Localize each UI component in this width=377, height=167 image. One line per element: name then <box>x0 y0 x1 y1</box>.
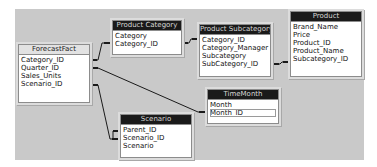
table-scenario[interactable]: Scenario Parent_ID Scenario_ID Scenario <box>120 114 192 158</box>
field-month[interactable]: Month <box>210 101 276 109</box>
relationship-line[interactable] <box>90 68 207 112</box>
table-product-category[interactable]: Product Category Category Category_ID <box>112 20 182 55</box>
table-title[interactable]: Product <box>291 12 361 22</box>
table-title[interactable]: Product Category <box>113 21 181 31</box>
field-category-manager[interactable]: Category_Manager <box>202 44 268 52</box>
table-title[interactable]: Product Subcategory <box>200 25 270 35</box>
table-title[interactable]: TimeMonth <box>208 90 278 100</box>
field-category-id[interactable]: Category_ID <box>202 36 268 44</box>
field-scenario-id[interactable]: Scenario_ID <box>21 80 87 88</box>
field-subcategory[interactable]: Subcategory <box>202 52 268 60</box>
relationship-line[interactable] <box>113 131 120 138</box>
table-product[interactable]: Product Brand_Name Price Product_ID Prod… <box>290 11 362 77</box>
table-title[interactable]: ForecastFact <box>19 45 89 55</box>
field-brand-name[interactable]: Brand_Name <box>293 23 359 31</box>
field-quarter-id[interactable]: Quarter_ID <box>21 64 87 72</box>
field-product-name[interactable]: Product_Name <box>293 47 359 55</box>
field-product-id[interactable]: Product_ID <box>293 39 359 47</box>
field-month-id[interactable]: Month_ID <box>210 109 276 117</box>
field-price[interactable]: Price <box>293 31 359 39</box>
table-forecastfact[interactable]: ForecastFact Category_ID Quarter_ID Sale… <box>18 44 90 103</box>
field-subcategory-id[interactable]: SubCategory_ID <box>202 60 268 68</box>
field-category[interactable]: Category <box>115 32 179 40</box>
field-sales-units[interactable]: Sales_Units <box>21 72 87 80</box>
field-scenario-id[interactable]: Scenario_ID <box>123 134 189 142</box>
field-scenario[interactable]: Scenario <box>123 142 189 150</box>
field-parent-id[interactable]: Parent_ID <box>123 126 189 134</box>
table-product-subcategory[interactable]: Product Subcategory Category_ID Category… <box>199 24 271 77</box>
field-category-id[interactable]: Category_ID <box>115 40 179 48</box>
table-timemonth[interactable]: TimeMonth Month Month_ID <box>207 89 279 124</box>
relationship-line[interactable] <box>90 43 112 60</box>
table-title[interactable]: Scenario <box>121 115 191 125</box>
field-category-id[interactable]: Category_ID <box>21 56 87 64</box>
field-subcategory-id[interactable]: Subcategory_ID <box>293 55 359 63</box>
